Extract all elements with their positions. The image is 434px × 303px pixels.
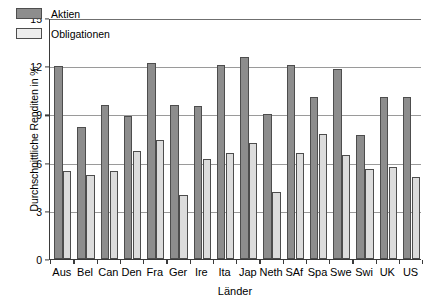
bar-aktien-aus [54, 66, 62, 259]
legend-swatch-obligationen [16, 28, 42, 39]
x-tick-mark-10 [283, 260, 284, 264]
x-tick-mark-1 [73, 260, 74, 264]
bar-obligationen-neth [272, 192, 280, 259]
bar-chart-figure: Durchschnittliche Renditen in % 03691215… [0, 0, 434, 303]
x-tick-label-fra: Fra [147, 266, 164, 278]
bar-aktien-spa [310, 97, 318, 259]
x-tick-label-den: Den [121, 266, 141, 278]
bar-obligationen-ire [203, 159, 211, 259]
bar-aktien-swe [333, 69, 341, 259]
y-tick-label-6: 6 [36, 158, 42, 169]
bar-group-saf [287, 19, 304, 259]
bar-aktien-swi [356, 135, 364, 259]
x-tick-label-aus: Aus [52, 266, 71, 278]
x-tick-mark-3 [120, 260, 121, 264]
bar-obligationen-jap [249, 143, 257, 259]
chart-legend: AktienObligationen [16, 5, 110, 45]
bar-series-layer [50, 19, 421, 259]
bar-aktien-uk [380, 97, 388, 259]
bar-aktien-saf [287, 65, 295, 259]
x-tick-mark-4 [143, 260, 144, 264]
y-tick-label-0: 0 [36, 255, 42, 266]
bar-group-uk [380, 19, 397, 259]
x-tick-mark-8 [236, 260, 237, 264]
x-tick-label-ita: Ita [218, 266, 230, 278]
x-tick-mark-14 [376, 260, 377, 264]
bar-obligationen-uk [389, 167, 397, 259]
y-tick-label-9: 9 [36, 110, 42, 121]
x-tick-label-can: Can [98, 266, 118, 278]
legend-label-obligationen: Obligationen [51, 28, 110, 40]
x-tick-label-uk: UK [380, 266, 395, 278]
bar-group-us [403, 19, 420, 259]
bar-aktien-den [124, 116, 132, 259]
bar-aktien-us [403, 97, 411, 259]
x-tick-label-us: US [403, 266, 418, 278]
bar-obligationen-bel [86, 175, 94, 259]
bar-group-neth [263, 19, 280, 259]
x-tick-mark-12 [329, 260, 330, 264]
bar-group-ger [170, 19, 187, 259]
plot-area [49, 19, 421, 260]
legend-label-aktien: Aktien [51, 8, 80, 20]
x-tick-mark-end [422, 260, 423, 264]
x-tick-mark-9 [259, 260, 260, 264]
bar-group-fra [147, 19, 164, 259]
x-axis-ticks: AusBelCanDenFraGerIreItaJapNethSAfSpaSwe… [49, 260, 421, 286]
x-tick-mark-5 [166, 260, 167, 264]
bar-obligationen-us [412, 177, 420, 259]
y-tick-label-3: 3 [36, 207, 42, 218]
bar-obligationen-can [110, 171, 118, 259]
y-axis-ticks: 03691215 [0, 0, 49, 303]
x-tick-label-ger: Ger [169, 266, 187, 278]
x-tick-label-swi: Swi [355, 266, 373, 278]
x-tick-mark-7 [213, 260, 214, 264]
x-tick-mark-11 [306, 260, 307, 264]
bar-obligationen-saf [296, 153, 304, 259]
bar-group-ire [194, 19, 211, 259]
bar-group-aus [54, 19, 71, 259]
bar-aktien-bel [77, 127, 85, 259]
bar-group-can [101, 19, 118, 259]
bar-obligationen-ita [226, 153, 234, 259]
bar-group-swi [356, 19, 373, 259]
bar-aktien-fra [147, 63, 155, 259]
bar-obligationen-swe [342, 155, 350, 259]
x-tick-label-neth: Neth [259, 266, 282, 278]
bar-aktien-ita [217, 65, 225, 259]
bar-obligationen-spa [319, 134, 327, 259]
y-tick-label-12: 12 [30, 62, 42, 73]
x-tick-mark-13 [352, 260, 353, 264]
legend-item-obligationen[interactable]: Obligationen [16, 25, 110, 42]
x-tick-mark-2 [97, 260, 98, 264]
x-tick-mark-15 [399, 260, 400, 264]
legend-swatch-aktien [16, 8, 42, 19]
x-tick-label-saf: SAf [285, 266, 303, 278]
bar-aktien-jap [240, 57, 248, 259]
x-tick-label-ire: Ire [195, 266, 208, 278]
bar-obligationen-fra [156, 140, 164, 259]
bar-aktien-ire [194, 106, 202, 259]
bar-obligationen-swi [365, 169, 373, 259]
bar-obligationen-ger [179, 195, 187, 259]
bar-obligationen-aus [63, 171, 71, 259]
bar-obligationen-den [133, 151, 141, 259]
bar-group-bel [77, 19, 94, 259]
bar-aktien-can [101, 105, 109, 259]
x-tick-label-swe: Swe [330, 266, 351, 278]
x-tick-label-spa: Spa [308, 266, 328, 278]
bar-group-den [124, 19, 141, 259]
legend-item-aktien[interactable]: Aktien [16, 5, 110, 22]
bar-group-spa [310, 19, 327, 259]
bar-aktien-neth [263, 114, 271, 259]
x-tick-mark-6 [190, 260, 191, 264]
bar-aktien-ger [170, 105, 178, 259]
bar-group-jap [240, 19, 257, 259]
bar-group-swe [333, 19, 350, 259]
x-tick-mark-0 [50, 260, 51, 264]
x-tick-label-bel: Bel [77, 266, 93, 278]
x-tick-label-jap: Jap [239, 266, 257, 278]
bar-group-ita [217, 19, 234, 259]
x-axis-title: Länder [49, 285, 421, 297]
